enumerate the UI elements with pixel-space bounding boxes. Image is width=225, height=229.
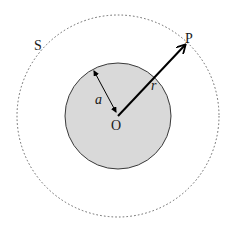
diagram: a O r P S — [0, 0, 225, 229]
label-o: O — [111, 118, 121, 133]
label-p: P — [185, 31, 193, 46]
label-a: a — [95, 92, 102, 107]
gauss-sphere-diagram: a O r P S — [0, 0, 225, 229]
label-r: r — [151, 78, 157, 93]
label-s: S — [34, 38, 42, 53]
